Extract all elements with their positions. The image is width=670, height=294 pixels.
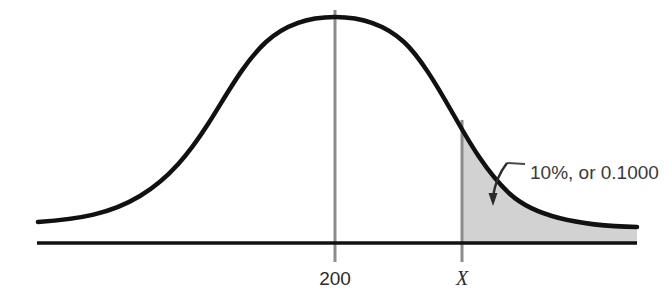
tail-area-callout-label: 10%, or 0.1000 (530, 162, 659, 183)
shaded-tail-area (38, 17, 637, 243)
normal-curve (38, 17, 637, 227)
mean-axis-label: 200 (319, 268, 351, 289)
callout-leader-line (507, 163, 525, 164)
cutoff-axis-label: X (455, 267, 469, 289)
normal-distribution-figure: 10%, or 0.1000 200 X (0, 0, 670, 294)
